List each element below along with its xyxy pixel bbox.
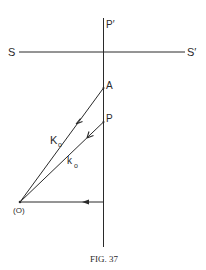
point-a: [103, 87, 105, 89]
label-a: A: [106, 80, 113, 91]
arrow-icon: [82, 200, 89, 205]
label-p-prime: P′: [106, 19, 115, 30]
label-s-prime: S′: [187, 46, 196, 58]
label-s: S: [8, 46, 15, 58]
ray-p-to-o: [20, 122, 104, 202]
label-k0-lower-sub: o: [74, 162, 78, 169]
point-o: [19, 201, 22, 204]
label-k0-lower: k: [67, 155, 73, 166]
label-k0-upper-sub: o: [58, 141, 62, 148]
figure-caption: FIG. 37: [90, 254, 119, 264]
label-p: P: [106, 113, 113, 124]
point-p: [103, 121, 105, 123]
label-o: (O): [13, 206, 25, 215]
label-k0-upper: K: [50, 134, 58, 146]
figure-diagram: P′ S S′ A P K o k o (O) FIG. 37: [0, 0, 206, 270]
